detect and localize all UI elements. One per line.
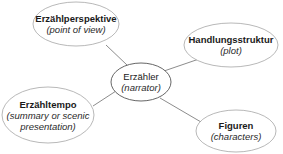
connector-characters (160, 98, 201, 122)
node-title: Figuren (219, 120, 254, 131)
node-tempo: Erzähltempo (summary or scenic presentat… (2, 87, 94, 143)
node-title: Erzähltempo (19, 99, 76, 110)
node-subtitle: (characters) (211, 131, 262, 142)
connector-perspective (106, 45, 127, 65)
node-title: Erzähler (123, 71, 158, 82)
node-center: Erzähler (narrator) (111, 63, 171, 101)
node-perspective: Erzählperspektive (point of view) (33, 2, 119, 46)
node-title: Erzählperspektive (35, 13, 116, 24)
node-subtitle: (point of view) (46, 24, 105, 35)
node-subtitle: (plot) (220, 45, 242, 56)
node-characters: Figuren (characters) (196, 110, 276, 152)
node-subtitle-line2: presentation) (20, 121, 75, 132)
node-subtitle: (narrator) (121, 82, 161, 93)
node-subtitle: (summary or scenic (7, 110, 90, 121)
node-plot: Handlungsstruktur (plot) (184, 23, 278, 67)
node-title: Handlungsstruktur (189, 34, 274, 45)
